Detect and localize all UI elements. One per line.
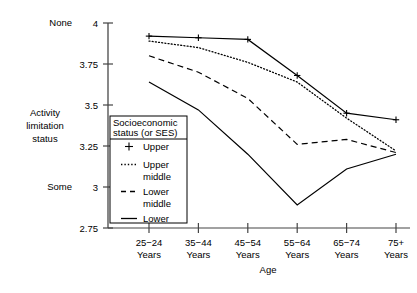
x-axis-title: Age	[260, 264, 277, 275]
x-tick-label: 25−24	[136, 237, 163, 248]
x-tick-label: 35−44	[185, 237, 212, 248]
y-tick-label: 3.25	[80, 141, 99, 152]
legend-entry-label: Upper	[143, 141, 169, 152]
y-axis-anchor-low-label: Some	[47, 181, 72, 192]
y-tick-label: 4	[93, 18, 98, 29]
legend-entry-label: Upper	[143, 159, 169, 170]
y-axis-title-line3: status	[32, 133, 58, 144]
chart-figure: 2.7533.253.53.754 25−24Years35−44Years45…	[0, 0, 417, 293]
legend-entry-label: middle	[143, 171, 171, 182]
y-axis-title-line1: Activity	[30, 107, 60, 118]
x-tick-label: Years	[384, 249, 408, 260]
y-axis-anchor-high-label: None	[49, 17, 72, 28]
chart-legend: Socioeconomic status (or SES) UpperUpper…	[110, 116, 187, 224]
legend-entry-label: Lower	[143, 186, 169, 197]
series-line	[149, 36, 396, 120]
legend-title-line2: status (or SES)	[113, 127, 177, 138]
x-tick-label: Years	[335, 249, 359, 260]
legend-entry-label: Lower	[143, 213, 169, 224]
y-tick-label: 3	[93, 182, 98, 193]
series-point-marker	[146, 33, 152, 39]
y-tick-label: 3.75	[80, 59, 99, 70]
legend-entry-label: middle	[143, 198, 171, 209]
series-point-marker	[195, 35, 201, 41]
x-tick-label: Years	[186, 249, 210, 260]
line-chart-svg: 2.7533.253.53.754 25−24Years35−44Years45…	[0, 0, 417, 293]
x-tick-label: 45−54	[234, 237, 261, 248]
series-point-marker	[393, 117, 399, 123]
y-tick-label: 2.75	[80, 223, 99, 234]
y-tick-label: 3.5	[85, 100, 98, 111]
x-tick-label: 75+	[388, 237, 405, 248]
y-axis-title-line2: limitation	[26, 120, 64, 131]
x-tick-label: 55−64	[284, 237, 311, 248]
x-tick-label: Years	[137, 249, 161, 260]
x-tick-label: Years	[285, 249, 309, 260]
x-tick-label: Years	[236, 249, 260, 260]
x-tick-label: 65−74	[333, 237, 360, 248]
